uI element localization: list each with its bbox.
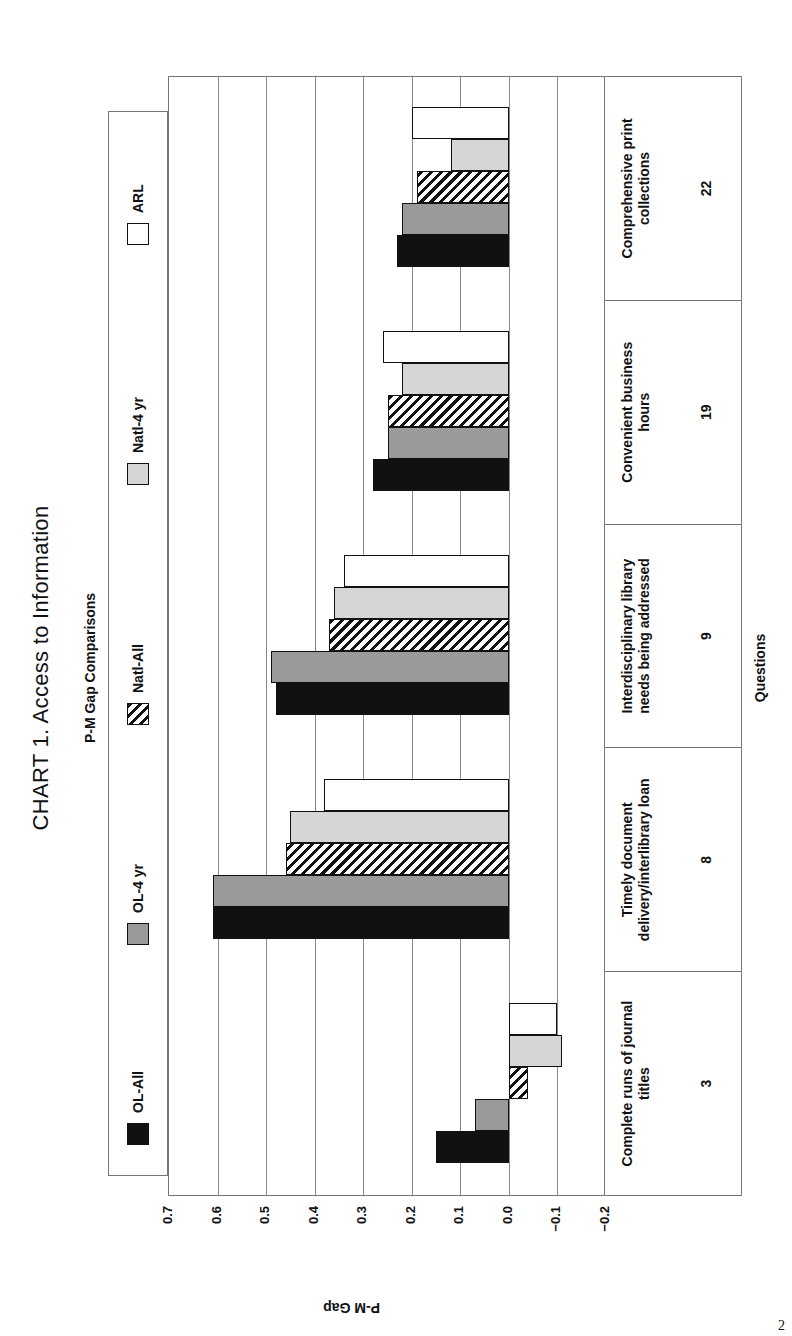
legend-item: OL-All	[127, 1071, 149, 1145]
category-cell: Complete runs of journal titles3	[605, 971, 741, 1195]
question-number: 19	[698, 404, 715, 420]
category-cell: Timely document delivery/interlibrary lo…	[605, 747, 741, 971]
y-tick-label: 0.5	[257, 1206, 272, 1266]
bar-arl-q22	[412, 107, 509, 139]
y-tick-label: −0.1	[548, 1206, 563, 1266]
category-label: Complete runs of journal titles	[619, 999, 653, 1169]
legend-label: Natl-All	[130, 644, 146, 693]
gridline	[266, 77, 267, 1195]
category-label: Convenient business hours	[619, 327, 653, 497]
chart-title: CHART 1. Access to Information	[28, 0, 54, 1336]
chart-canvas: CHART 1. Access to Information P-M Gap C…	[0, 0, 792, 1336]
y-tick-label: 0.1	[451, 1206, 466, 1266]
legend-item: Natl-4 yr	[127, 397, 149, 485]
category-label: Timely document delivery/interlibrary lo…	[619, 775, 653, 945]
y-tick-label: 0.7	[160, 1206, 175, 1266]
bar-ol-4-yr-q8	[213, 875, 509, 907]
bar-natl-all-q22	[417, 171, 509, 203]
gridline	[218, 77, 219, 1195]
legend-label: ARL	[130, 184, 146, 213]
category-label: Interdisciplinary library needs being ad…	[619, 551, 653, 721]
category-label: Comprehensive print collections	[619, 103, 653, 273]
bar-arl-q3	[509, 1003, 558, 1035]
legend-label: Natl-4 yr	[130, 397, 146, 453]
category-cell: Comprehensive print collections22	[605, 77, 741, 300]
question-number: 3	[698, 1080, 715, 1088]
bar-natl-all-q3	[509, 1067, 528, 1099]
bar-ol-all-q22	[397, 235, 509, 267]
legend-swatch-icon	[127, 223, 149, 245]
bar-natl-4-yr-q22	[451, 139, 509, 171]
bar-natl-all-q8	[286, 843, 509, 875]
gridline	[315, 77, 316, 1195]
y-tick-label: 0.3	[354, 1206, 369, 1266]
legend-swatch-icon	[127, 703, 149, 725]
bar-ol-4-yr-q19	[388, 427, 509, 459]
bar-ol-4-yr-q3	[475, 1099, 509, 1131]
bar-arl-q19	[383, 331, 509, 363]
bar-ol-all-q19	[373, 459, 509, 491]
bar-ol-all-q9	[276, 683, 509, 715]
gridline	[557, 77, 558, 1195]
x-axis-label: Questions	[752, 0, 768, 1336]
bar-ol-all-q8	[213, 907, 509, 939]
bar-ol-4-yr-q9	[271, 651, 509, 683]
bar-natl-4-yr-q8	[290, 811, 509, 843]
question-number: 22	[698, 181, 715, 197]
legend-swatch-icon	[127, 463, 149, 485]
bar-natl-all-q19	[388, 395, 509, 427]
chart-subtitle: P-M Gap Comparisons	[82, 0, 98, 1336]
plot-area	[168, 76, 605, 1196]
legend-swatch-icon	[127, 1123, 149, 1145]
y-tick-label: 0.4	[306, 1206, 321, 1266]
bar-natl-4-yr-q3	[509, 1035, 562, 1067]
question-number: 8	[698, 856, 715, 864]
legend-swatch-icon	[127, 923, 149, 945]
bar-natl-4-yr-q19	[402, 363, 509, 395]
legend-item: Natl-All	[127, 644, 149, 725]
y-axis-label: P-M Gap	[323, 1300, 380, 1316]
bar-ol-all-q3	[436, 1131, 509, 1163]
y-tick-label: 0.0	[500, 1206, 515, 1266]
legend-label: OL-All	[130, 1071, 146, 1113]
category-cell: Interdisciplinary library needs being ad…	[605, 524, 741, 748]
page-number: 2	[778, 1318, 785, 1334]
bar-ol-4-yr-q22	[402, 203, 509, 235]
y-tick-label: −0.2	[597, 1206, 612, 1266]
y-tick-label: 0.6	[209, 1206, 224, 1266]
y-tick-label: 0.2	[403, 1206, 418, 1266]
bar-arl-q8	[324, 779, 509, 811]
question-number: 9	[698, 632, 715, 640]
category-cell: Convenient business hours19	[605, 300, 741, 524]
bar-arl-q9	[344, 555, 509, 587]
legend-label: OL-4 yr	[130, 864, 146, 913]
legend: OL-AllOL-4 yrNatl-AllNatl-4 yrARL	[108, 111, 168, 1176]
category-label-table: Complete runs of journal titles3Timely d…	[605, 76, 742, 1196]
bar-natl-4-yr-q9	[334, 587, 509, 619]
bar-natl-all-q9	[329, 619, 509, 651]
legend-item: OL-4 yr	[127, 864, 149, 945]
legend-item: ARL	[127, 184, 149, 245]
